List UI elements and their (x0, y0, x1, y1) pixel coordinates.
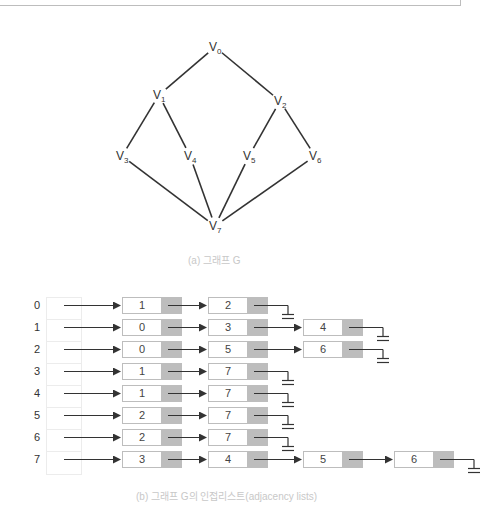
adjacency-caption: (b) 그래프 G의 인접리스트(adjacency lists) (136, 488, 317, 503)
adjacency-arrows (0, 0, 501, 514)
